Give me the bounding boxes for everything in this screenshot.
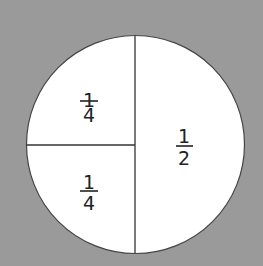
fraction-circle-diagram: 1 4 1 4 1 2	[0, 0, 263, 266]
denominator: 4	[83, 192, 95, 214]
denominator: 2	[178, 147, 190, 169]
numerator: 1	[178, 125, 190, 147]
numerator: 1	[83, 171, 95, 193]
denominator: 4	[83, 104, 95, 126]
